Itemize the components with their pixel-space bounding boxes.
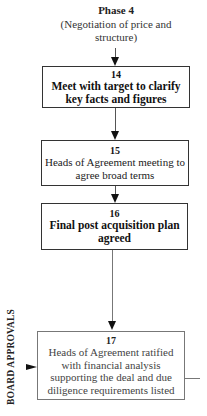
step-box-16: 16 Final post acquisition plan agreed bbox=[41, 203, 188, 250]
arrow-down-icon bbox=[108, 321, 116, 330]
connector-line bbox=[112, 250, 113, 321]
step-number: 17 bbox=[38, 335, 184, 346]
step-text: Meet with target to clarify key facts an… bbox=[43, 80, 189, 106]
arrow-down-icon bbox=[111, 194, 119, 203]
step-number: 14 bbox=[43, 69, 189, 80]
step-text: Final post acquisition plan agreed bbox=[42, 219, 187, 245]
step-box-14: 14 Meet with target to clarify key facts… bbox=[42, 66, 190, 108]
arrow-down-icon bbox=[111, 131, 119, 140]
connector-line bbox=[185, 378, 200, 379]
board-approvals-label: BOARD APPROVALS bbox=[6, 309, 16, 405]
step-text: Heads of Agreement meeting to agree broa… bbox=[42, 156, 188, 182]
phase-title: Phase 4 bbox=[0, 4, 207, 16]
arrow-right-icon bbox=[26, 364, 37, 370]
connector-line bbox=[115, 186, 116, 194]
arrow-down-icon bbox=[111, 57, 119, 66]
step-box-15: 15 Heads of Agreement meeting to agree b… bbox=[41, 140, 189, 186]
step-number: 15 bbox=[42, 145, 188, 156]
step-text: Heads of Agreement ratified with financi… bbox=[38, 346, 184, 396]
phase-subtitle: (Negotiation of price and structure) bbox=[60, 18, 172, 44]
step-box-17: 17 Heads of Agreement ratified with fina… bbox=[37, 331, 185, 400]
step-number: 16 bbox=[42, 208, 187, 219]
connector-line bbox=[115, 108, 116, 131]
